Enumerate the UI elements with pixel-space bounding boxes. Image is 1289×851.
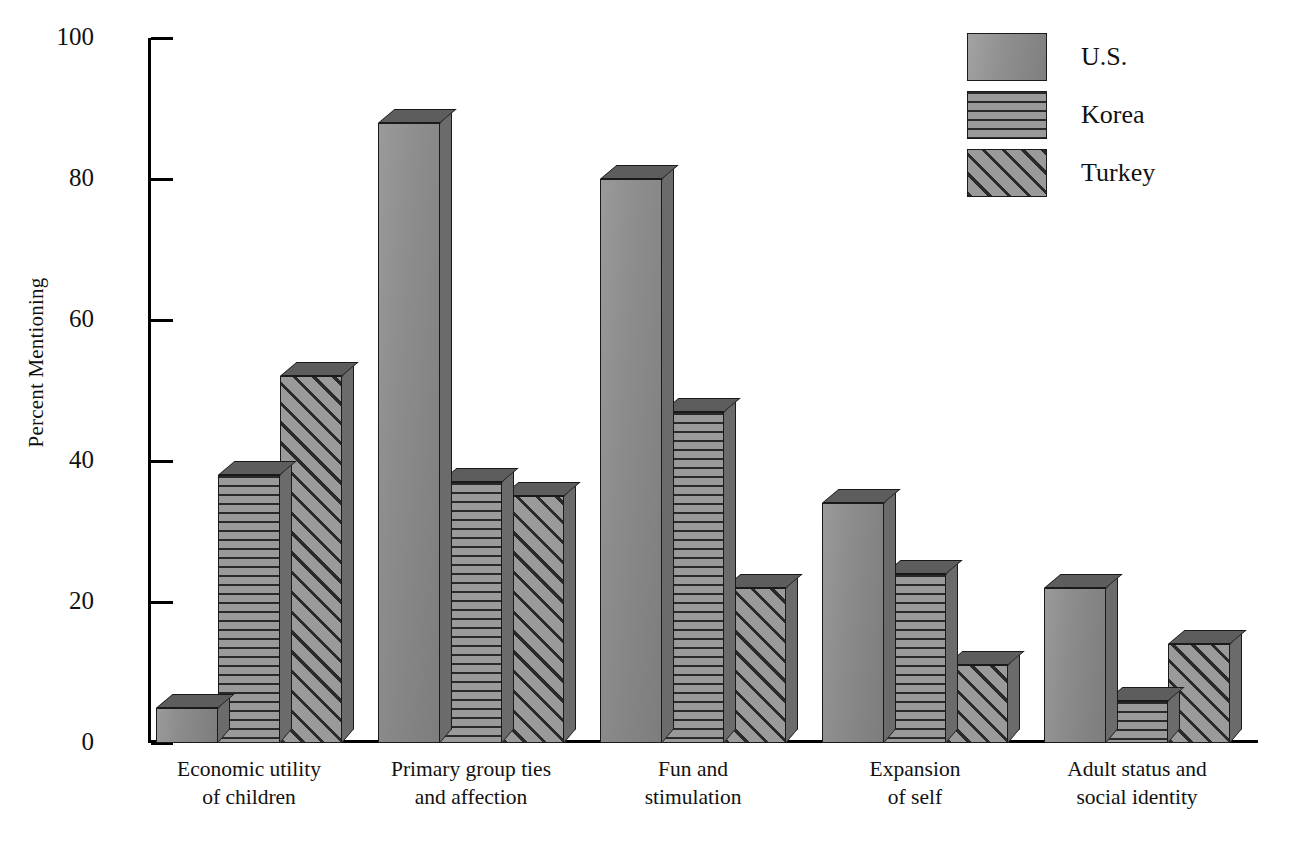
bar-front-face	[378, 123, 440, 743]
category-label-line: social identity	[997, 784, 1277, 812]
category-label: Adult status andsocial identity	[997, 756, 1277, 811]
legend-item: Korea	[967, 86, 1257, 144]
bar-front-face	[600, 179, 662, 743]
bar-front-face	[1044, 588, 1106, 743]
bar-side-face	[786, 574, 798, 743]
y-tick-label: 100	[14, 24, 94, 49]
legend-item-label: Korea	[1081, 100, 1145, 130]
bar-side-face	[440, 108, 452, 743]
bar-side-face	[564, 482, 576, 743]
legend-item: Turkey	[967, 144, 1257, 202]
legend: U.S.KoreaTurkey	[967, 28, 1257, 202]
category-label-line: Economic utility	[177, 757, 321, 781]
bar	[378, 123, 440, 743]
bar	[1044, 588, 1106, 743]
bar-side-face	[1106, 574, 1118, 743]
category-label-line: Fun and	[658, 757, 728, 781]
bar-side-face	[662, 165, 674, 743]
y-tick-label: 40	[14, 447, 94, 472]
category-label-line: Primary group ties	[391, 757, 551, 781]
legend-item: U.S.	[967, 28, 1257, 86]
category-label-line: Expansion	[870, 757, 961, 781]
legend-item-label: U.S.	[1081, 42, 1127, 72]
bar-chart: Percent Mentioning 100806040200 Economic…	[0, 0, 1289, 851]
horizontal-stripe-swatch	[967, 91, 1047, 139]
y-tick-label: 0	[14, 729, 94, 754]
legend-item-label: Turkey	[1081, 158, 1155, 188]
bar-side-face	[946, 560, 958, 743]
category-label-line: Adult status and	[1067, 757, 1207, 781]
bar-side-face	[1230, 630, 1242, 743]
diagonal-stripe-swatch	[967, 149, 1047, 197]
bar-side-face	[1008, 651, 1020, 743]
bar	[822, 503, 884, 743]
bar-side-face	[884, 489, 896, 743]
bar	[600, 179, 662, 743]
y-tick-label: 20	[14, 588, 94, 613]
bar-side-face	[724, 397, 736, 743]
bar-side-face	[502, 468, 514, 743]
bar	[156, 708, 218, 743]
bar-side-face	[280, 461, 292, 743]
y-tick-label: 60	[14, 306, 94, 331]
bar-front-face	[822, 503, 884, 743]
bar-front-face	[156, 708, 218, 743]
y-tick-label: 80	[14, 165, 94, 190]
solid-gray-swatch	[967, 33, 1047, 81]
bar-side-face	[342, 362, 354, 743]
